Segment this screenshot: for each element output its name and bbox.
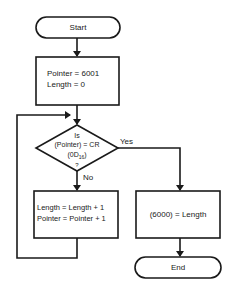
- no-label: No: [83, 173, 93, 183]
- end-label: End: [135, 263, 221, 273]
- flowchart-canvas: [0, 0, 234, 293]
- init-line-pointer: Pointer = 6001: [47, 69, 99, 79]
- decision-line-condition: (Pointer) = CR: [42, 140, 112, 150]
- decision-hex-end: ): [84, 151, 86, 158]
- increment-line-length: Length = Length + 1: [37, 203, 104, 213]
- increment-line-pointer: Pointer = Pointer + 1: [37, 214, 106, 224]
- decision-hex-main: (0D: [67, 151, 78, 158]
- start-label: Start: [36, 23, 120, 33]
- yes-label: Yes: [120, 137, 133, 147]
- decision-question-mark: ?: [67, 160, 87, 170]
- init-line-length: Length = 0: [47, 80, 85, 90]
- store-label: (6000) = Length: [136, 210, 220, 220]
